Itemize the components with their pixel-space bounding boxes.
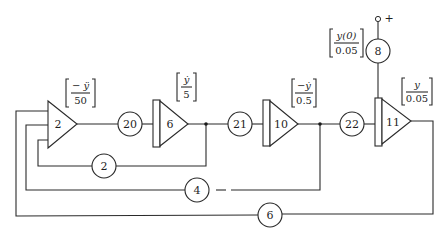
svg-text:8: 8 — [375, 45, 382, 58]
potentiometer-22: 22 — [340, 112, 364, 136]
potentiometer-8: 8 — [366, 39, 390, 63]
svg-text:y(0): y(0) — [336, 30, 357, 41]
svg-text:0.5: 0.5 — [296, 95, 312, 106]
annotation-amp11: y 0.05 — [402, 78, 432, 105]
svg-text:y: y — [413, 79, 420, 90]
svg-text:20: 20 — [123, 118, 137, 131]
potentiometer-4: 4 — [185, 178, 209, 202]
annotation-amp6: ẏ 5 — [177, 73, 196, 101]
supply-plus-sign: + — [384, 12, 393, 25]
annotation-pot8: y(0) 0.05 — [330, 29, 363, 57]
svg-text:ẏ: ẏ — [183, 74, 190, 85]
potentiometer-21: 21 — [228, 112, 252, 136]
amplifier-11-label: 11 — [386, 116, 400, 129]
svg-text:0.05: 0.05 — [335, 45, 357, 56]
svg-text:22: 22 — [345, 118, 359, 131]
svg-text:− ÿ: − ÿ — [72, 80, 90, 91]
svg-text:50: 50 — [74, 95, 87, 106]
svg-text:0.05: 0.05 — [406, 93, 428, 104]
amplifier-2: 2 — [48, 101, 77, 148]
svg-text:6: 6 — [267, 209, 274, 222]
amplifier-2-label: 2 — [55, 118, 62, 131]
svg-text:4: 4 — [194, 184, 201, 197]
amplifier-6: 6 — [153, 100, 188, 147]
feedback-loop-pot2-left — [38, 140, 92, 166]
amplifier-11: 11 — [375, 98, 411, 146]
annotation-amp10: −ẏ 0.5 — [292, 79, 316, 107]
potentiometer-6: 6 — [258, 203, 282, 227]
potentiometer-20: 20 — [118, 112, 142, 136]
amplifier-6-label: 6 — [167, 118, 174, 131]
amplifier-10-label: 10 — [274, 118, 288, 131]
analog-computer-diagram: 2 6 10 11 20 21 22 8 2 4 — [0, 0, 447, 235]
svg-text:2: 2 — [101, 160, 108, 173]
svg-text:−ẏ: −ẏ — [297, 80, 311, 91]
junction-dot-amp6-output — [204, 122, 208, 126]
junction-dot-amp10-output — [318, 122, 322, 126]
svg-text:5: 5 — [183, 89, 189, 100]
annotation-amp2: − ÿ 50 — [66, 79, 95, 107]
svg-text:21: 21 — [233, 118, 247, 131]
potentiometer-2: 2 — [92, 154, 116, 178]
